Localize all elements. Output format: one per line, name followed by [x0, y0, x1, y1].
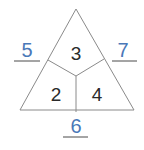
- number-triangle-diagram: 3 2 4 5 7 6: [0, 0, 144, 150]
- answer-left: 5: [21, 39, 32, 61]
- answer-bottom: 6: [70, 115, 81, 137]
- answer-right: 7: [117, 39, 128, 61]
- inner-number-bottom-left: 2: [51, 84, 62, 105]
- inner-number-top: 3: [71, 43, 82, 64]
- inner-number-bottom-right: 4: [92, 84, 103, 105]
